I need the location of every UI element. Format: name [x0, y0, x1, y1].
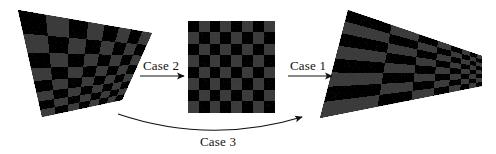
checker-cell	[264, 55, 275, 67]
checker-cell	[199, 21, 210, 33]
checker-cell	[188, 78, 199, 90]
checker-cell	[18, 10, 48, 36]
checker-cell	[242, 67, 253, 79]
checker-cell	[188, 21, 199, 33]
checker-cell	[199, 44, 210, 56]
checker-cell	[242, 44, 253, 56]
checker-cell	[231, 21, 242, 33]
checker-cell	[231, 44, 242, 56]
checker-cell	[210, 32, 221, 44]
checker-cell	[253, 32, 264, 44]
checker-cell	[199, 67, 210, 79]
checker-cell	[264, 101, 275, 113]
checker-cell	[264, 32, 275, 44]
checker-cell	[23, 33, 50, 53]
checker-cell	[264, 90, 275, 102]
checker-cell	[51, 67, 69, 80]
case2-label: Case 2	[143, 58, 179, 74]
checker-cell	[199, 90, 210, 102]
checker-cell	[231, 78, 242, 90]
checker-cell	[188, 67, 199, 79]
checker-cell	[231, 90, 242, 102]
checker-cell	[253, 90, 264, 102]
checker-cell	[242, 55, 253, 67]
checker-cell	[220, 78, 231, 90]
checker-cell	[188, 32, 199, 44]
checker-cell	[231, 67, 242, 79]
checker-cell	[253, 55, 264, 67]
checker-cell	[199, 55, 210, 67]
checker-cell	[68, 38, 86, 55]
checker-cell	[85, 39, 102, 54]
checker-cell	[264, 78, 275, 90]
checker-cell	[31, 68, 52, 82]
checker-cell	[220, 90, 231, 102]
checker-cell	[242, 90, 253, 102]
checker-cell	[188, 55, 199, 67]
checker-cell	[69, 19, 89, 40]
checker-cell	[469, 83, 476, 89]
checker-cell	[210, 78, 221, 90]
checker-cell	[242, 32, 253, 44]
checker-cell	[210, 21, 221, 33]
checker-cell	[52, 78, 68, 90]
checker-cell	[83, 54, 99, 67]
checker-cell	[253, 67, 264, 79]
checker-cell	[46, 15, 70, 38]
right-perspective-board	[320, 10, 482, 118]
checker-cell	[220, 55, 231, 67]
checker-cell	[469, 74, 476, 79]
checker-cell	[476, 82, 482, 87]
checker-cell	[220, 32, 231, 44]
checker-cell	[242, 101, 253, 113]
checker-cell	[450, 74, 462, 80]
checker-cell	[450, 68, 461, 74]
checker-cell	[231, 55, 242, 67]
checker-cell	[210, 101, 221, 113]
checker-cell	[220, 21, 231, 33]
figure-canvas: Case 2 Case 1 Case 3	[0, 0, 496, 154]
checker-cell	[68, 54, 85, 68]
checker-cell	[253, 21, 264, 33]
checker-cell	[199, 32, 210, 44]
checker-cell	[210, 67, 221, 79]
checker-cell	[210, 55, 221, 67]
checker-cell	[460, 84, 469, 91]
checker-cell	[231, 101, 242, 113]
checker-cell	[28, 53, 52, 69]
checker-cell	[414, 73, 436, 82]
checker-cell	[220, 101, 231, 113]
checker-cell	[242, 21, 253, 33]
checker-cell	[461, 69, 470, 74]
checker-cell	[435, 67, 450, 74]
checker-cell	[188, 44, 199, 56]
checker-cell	[220, 67, 231, 79]
checker-cell	[68, 67, 84, 79]
checker-cell	[34, 80, 54, 93]
checker-cell	[68, 77, 83, 88]
checker-cell	[264, 21, 275, 33]
checker-cell	[199, 101, 210, 113]
checker-cell	[253, 78, 264, 90]
checker-cell	[470, 70, 477, 75]
case3-arrow	[118, 114, 302, 130]
checker-cell	[49, 53, 68, 68]
checker-cell	[476, 74, 482, 78]
checker-cell	[82, 66, 97, 77]
checker-cell	[253, 101, 264, 113]
checker-cell	[435, 74, 451, 81]
checker-cell	[210, 90, 221, 102]
checker-cell	[231, 32, 242, 44]
left-distorted-board	[18, 10, 152, 117]
checker-cell	[264, 44, 275, 56]
checker-cell	[210, 44, 221, 56]
checker-cell	[48, 36, 69, 54]
case1-label: Case 1	[290, 58, 326, 74]
checker-cell	[264, 67, 275, 79]
case3-label: Case 3	[200, 134, 236, 150]
checker-cell	[199, 78, 210, 90]
checker-cell	[220, 44, 231, 56]
checker-cell	[476, 70, 482, 74]
middle-rectified-board	[188, 21, 275, 113]
checker-cell	[461, 74, 470, 79]
